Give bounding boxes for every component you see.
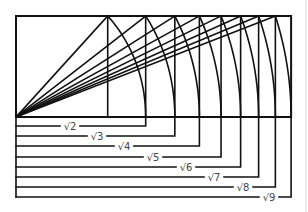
bracket-right-segment <box>279 117 291 197</box>
bracket-sqrt-4 <box>16 117 199 146</box>
diagonal-line-6 <box>16 16 241 117</box>
arc-sqrt-7 <box>241 16 259 117</box>
arc-sqrt-9 <box>275 16 291 117</box>
bracket-label-sqrt-4: √4 <box>118 141 131 152</box>
bracket-label-sqrt-9: √9 <box>263 192 276 203</box>
arc-sqrt-5 <box>199 16 221 117</box>
arc-sqrt-8 <box>259 16 276 117</box>
arc-sqrt-4 <box>175 16 200 117</box>
bracket-label-sqrt-6: √6 <box>180 162 193 173</box>
bracket-right-segment <box>134 117 199 146</box>
diagonal-line-3 <box>16 16 175 117</box>
diagonal-line-2 <box>16 16 146 117</box>
bracket-label-sqrt-7: √7 <box>208 172 221 183</box>
sqrt-construction-diagram: √2√3√4√5√6√7√8√9 <box>0 0 308 212</box>
bracket-label-sqrt-3: √3 <box>91 131 104 142</box>
labels-group: √2√3√4√5√6√7√8√9 <box>64 121 276 203</box>
bracket-label-sqrt-2: √2 <box>64 121 77 132</box>
diagonal-line-5 <box>16 16 221 117</box>
bracket-right-segment <box>80 117 146 126</box>
bracket-right-segment <box>196 117 241 167</box>
bracket-label-sqrt-5: √5 <box>147 152 160 163</box>
bracket-label-sqrt-8: √8 <box>237 182 250 193</box>
bracket-sqrt-2 <box>16 117 146 126</box>
bracket-right-segment <box>163 117 221 157</box>
